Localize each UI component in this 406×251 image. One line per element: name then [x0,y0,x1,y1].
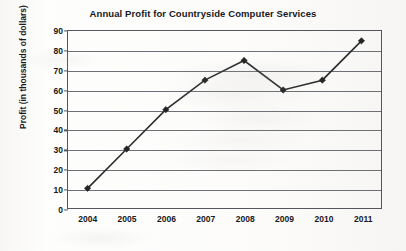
y-tick-label: 20 [54,165,63,175]
y-tick-label: 80 [54,46,63,56]
x-tick-label: 2008 [236,214,255,224]
chart-title: Annual Profit for Countryside Computer S… [0,8,406,19]
y-tick-label: 90 [54,26,63,36]
x-tick-label: 2005 [118,214,137,224]
data-series-layer [68,31,381,208]
y-tick-label: 40 [54,125,63,135]
y-tick-mark [64,209,68,210]
x-tick-label: 2011 [354,214,372,224]
y-tick-label: 50 [54,106,63,116]
x-tick-label: 2010 [314,214,333,224]
y-tick-label: 10 [54,185,63,195]
x-tick-label: 2006 [157,214,176,224]
x-tick-label: 2009 [275,214,294,224]
y-tick-label: 30 [54,145,63,155]
profit-line [88,41,362,189]
profit-markers [84,38,364,192]
y-tick-label: 60 [54,86,63,96]
y-tick-label: 70 [54,66,63,76]
y-tick-label: 0 [58,205,63,215]
chart-page: Annual Profit for Countryside Computer S… [0,0,406,251]
x-tick-label: 2007 [196,214,215,224]
plot-area: 0102030405060708090 20042005200620072008… [67,30,382,209]
y-axis-title: Profit (in thousands of dollars) [18,0,28,142]
x-tick-label: 2004 [78,214,97,224]
